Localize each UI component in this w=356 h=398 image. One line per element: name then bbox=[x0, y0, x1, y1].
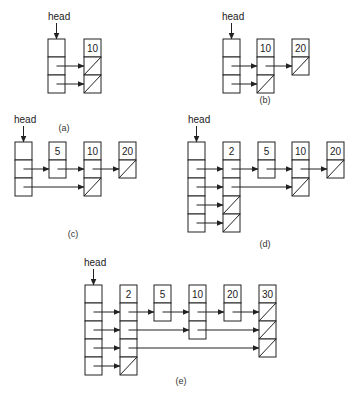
head-header-cell bbox=[48, 39, 65, 57]
node-value: 10 bbox=[260, 43, 272, 54]
head-label: head bbox=[84, 257, 106, 268]
head-label: head bbox=[48, 11, 70, 22]
panel-c: head51020(c) bbox=[14, 114, 136, 239]
node-value: 30 bbox=[262, 289, 274, 300]
node-value: 10 bbox=[295, 146, 307, 157]
node-20: 20 bbox=[119, 142, 136, 178]
node-value: 5 bbox=[55, 146, 61, 157]
head-label: head bbox=[14, 114, 36, 125]
node-5: 5 bbox=[258, 142, 275, 178]
node-value: 20 bbox=[122, 146, 134, 157]
panel-caption: (c) bbox=[68, 229, 79, 239]
panel-caption: (b) bbox=[260, 95, 271, 105]
head-header-cell bbox=[223, 39, 240, 57]
head-header-cell bbox=[15, 142, 32, 160]
node-20: 20 bbox=[224, 285, 241, 321]
node-value: 5 bbox=[264, 146, 270, 157]
node-value: 5 bbox=[160, 289, 166, 300]
node-value: 10 bbox=[87, 146, 99, 157]
node-value: 20 bbox=[295, 43, 307, 54]
head-header-cell bbox=[85, 285, 102, 303]
panel-b: head1020(b) bbox=[222, 11, 309, 105]
node-5: 5 bbox=[49, 142, 66, 178]
head-header-cell bbox=[188, 142, 205, 160]
panel-e: head25102030(e) bbox=[84, 257, 276, 386]
node-value: 20 bbox=[227, 289, 239, 300]
node-value: 2 bbox=[229, 146, 235, 157]
node-value: 10 bbox=[87, 43, 99, 54]
panel-caption: (a) bbox=[59, 123, 70, 133]
panel-caption: (e) bbox=[176, 376, 187, 386]
panel-d: head251020(d) bbox=[188, 114, 344, 249]
node-value: 20 bbox=[330, 146, 342, 157]
node-10: 10 bbox=[84, 39, 101, 93]
node-20: 20 bbox=[327, 142, 344, 178]
panel-a: head10(a) bbox=[48, 11, 101, 133]
panel-caption: (d) bbox=[260, 239, 271, 249]
head-label: head bbox=[188, 114, 210, 125]
node-30: 30 bbox=[259, 285, 276, 357]
node-5: 5 bbox=[154, 285, 171, 321]
node-value: 10 bbox=[192, 289, 204, 300]
skip-list-diagram: head10(a)head1020(b)head51020(c)head2510… bbox=[0, 0, 356, 398]
node-value: 2 bbox=[126, 289, 132, 300]
node-20: 20 bbox=[292, 39, 309, 75]
head-label: head bbox=[222, 11, 244, 22]
